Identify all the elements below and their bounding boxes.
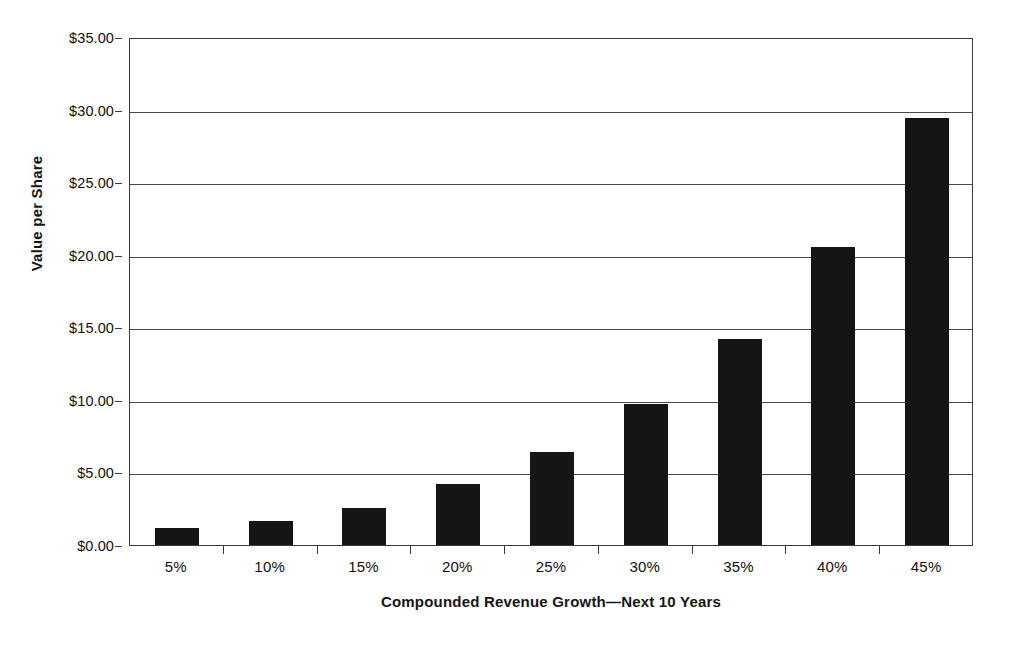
bar-slot xyxy=(224,39,318,545)
x-axis-title: Compounded Revenue Growth—Next 10 Years xyxy=(129,593,973,610)
bar[interactable] xyxy=(905,118,949,545)
y-axis-tick-label: $10.00 xyxy=(20,393,114,409)
bar-slot xyxy=(693,39,787,545)
bar-slot xyxy=(880,39,974,545)
y-axis-tick-mark xyxy=(115,546,122,547)
y-axis-tick-mark xyxy=(115,183,122,184)
y-axis-tick-label: $5.00 xyxy=(20,465,114,481)
x-axis-tick-label: 45% xyxy=(911,558,942,575)
bars-layer xyxy=(130,39,972,545)
bar-slot xyxy=(318,39,412,545)
bar-slot xyxy=(411,39,505,545)
x-axis-tick-mark xyxy=(504,546,505,554)
y-axis-tick-mark xyxy=(115,256,122,257)
bar-slot xyxy=(599,39,693,545)
x-axis-tick-mark xyxy=(317,546,318,554)
bar-slot xyxy=(786,39,880,545)
x-axis-tick-mark xyxy=(410,546,411,554)
x-axis-tick-label: 15% xyxy=(348,558,379,575)
x-axis-tick-label: 30% xyxy=(629,558,660,575)
bar[interactable] xyxy=(624,404,668,545)
x-axis-tick-label: 20% xyxy=(442,558,473,575)
bar[interactable] xyxy=(811,247,855,545)
bar[interactable] xyxy=(249,521,293,545)
bar[interactable] xyxy=(436,484,480,545)
y-axis-tick-label: $35.00 xyxy=(20,30,114,46)
bar-chart-figure: Value per Share $0.00$5.00$10.00$15.00$2… xyxy=(0,0,1012,645)
x-axis-tick-label: 25% xyxy=(536,558,567,575)
plot-area xyxy=(129,38,973,546)
bar[interactable] xyxy=(155,528,199,545)
x-axis-tick-mark-group xyxy=(129,546,973,555)
y-axis-tick-label: $20.00 xyxy=(20,248,114,264)
x-axis-tick-mark xyxy=(879,546,880,554)
y-axis-tick-label: $25.00 xyxy=(20,175,114,191)
y-axis-tick-mark xyxy=(115,473,122,474)
x-axis-tick-mark xyxy=(223,546,224,554)
x-axis-tick-label: 10% xyxy=(254,558,285,575)
bar[interactable] xyxy=(718,339,762,545)
y-axis-tick-mark xyxy=(115,38,122,39)
bar-slot xyxy=(130,39,224,545)
x-axis-tick-label: 35% xyxy=(723,558,754,575)
bar[interactable] xyxy=(342,508,386,545)
bar[interactable] xyxy=(530,452,574,545)
y-axis-tick-label: $30.00 xyxy=(20,103,114,119)
bar-slot xyxy=(505,39,599,545)
y-axis-tick-mark xyxy=(115,328,122,329)
x-axis-tick-label: 40% xyxy=(817,558,848,575)
y-axis-tick-mark xyxy=(115,111,122,112)
y-axis-tick-label: $15.00 xyxy=(20,320,114,336)
x-axis-tick-label: 5% xyxy=(165,558,187,575)
y-axis-tick-label-group: $0.00$5.00$10.00$15.00$20.00$25.00$30.00… xyxy=(24,38,122,546)
y-axis-tick-label: $0.00 xyxy=(20,538,114,554)
x-axis-tick-label-group: 5%10%15%20%25%30%35%40%45% xyxy=(129,558,973,584)
x-axis-tick-mark xyxy=(598,546,599,554)
y-axis-tick-mark xyxy=(115,401,122,402)
x-axis-tick-mark xyxy=(785,546,786,554)
x-axis-tick-mark xyxy=(692,546,693,554)
